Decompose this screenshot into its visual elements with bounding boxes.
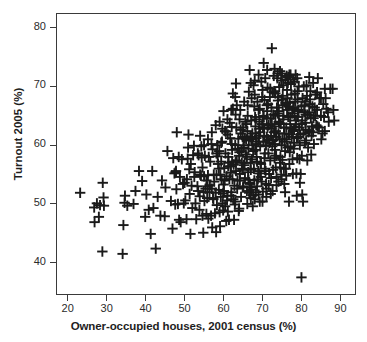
x-tick-mark — [184, 295, 185, 301]
x-tick-mark — [67, 295, 68, 301]
x-tick-label: 50 — [170, 302, 200, 314]
y-axis-title: Turnout 2005 (%) — [12, 54, 24, 214]
y-tick-mark — [50, 27, 56, 28]
x-tick-label: 70 — [247, 302, 277, 314]
x-tick-label: 80 — [286, 302, 316, 314]
x-tick-label: 60 — [209, 302, 239, 314]
scatter-plot-figure: 4050607080 2030405060708090 Owner-occupi… — [0, 0, 367, 342]
x-tick-mark — [301, 295, 302, 301]
x-tick-label: 40 — [131, 302, 161, 314]
x-tick-label: 30 — [92, 302, 122, 314]
plot-area-frame — [56, 13, 356, 295]
y-tick-label: 80 — [0, 20, 46, 32]
y-tick-mark — [50, 145, 56, 146]
x-tick-label: 90 — [325, 302, 355, 314]
x-tick-mark — [223, 295, 224, 301]
x-tick-label: 20 — [53, 302, 83, 314]
y-tick-mark — [50, 86, 56, 87]
y-tick-mark — [50, 262, 56, 263]
y-tick-label: 40 — [0, 255, 46, 267]
x-tick-mark — [106, 295, 107, 301]
x-tick-mark — [145, 295, 146, 301]
x-axis-title: Owner-occupied houses, 2001 census (%) — [0, 320, 367, 332]
y-tick-mark — [50, 203, 56, 204]
x-tick-mark — [340, 295, 341, 301]
x-tick-mark — [262, 295, 263, 301]
